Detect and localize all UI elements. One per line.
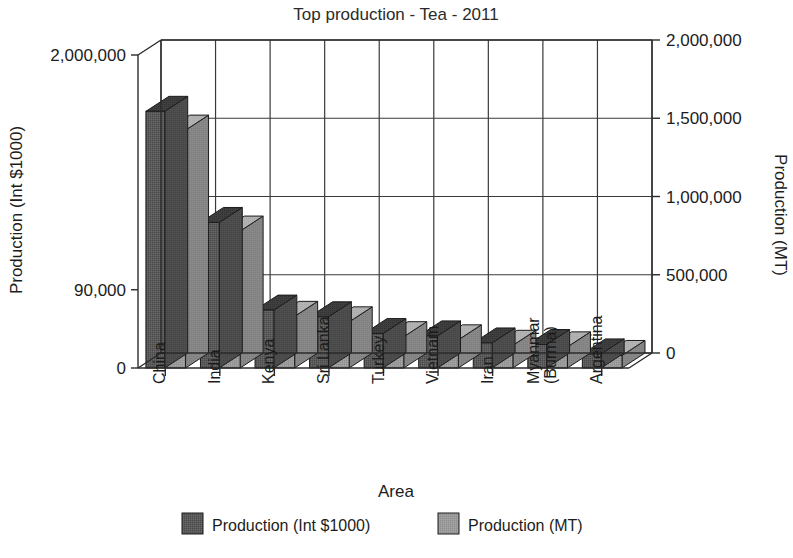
y-axis-label-left: Production (Int $1000): [7, 126, 26, 294]
chart-container: Top production - Tea - 2011 090,0002,000…: [0, 0, 793, 558]
right-tick-label-3: 1,500,000: [666, 109, 742, 128]
category-label-2: Kenya: [260, 339, 277, 384]
category-label-6: Iran: [479, 356, 496, 384]
legend-label-1: Production (MT): [468, 517, 583, 534]
legend-swatch-1: [438, 513, 459, 534]
right-tick-label-4: 2,000,000: [666, 31, 742, 50]
chart-title: Top production - Tea - 2011: [293, 5, 498, 24]
bar-chart-3d: Top production - Tea - 2011 090,0002,000…: [0, 0, 793, 558]
left-tick-label-0: 0: [117, 359, 126, 378]
right-tick-label-1: 500,000: [666, 266, 727, 285]
y-axis-label-right: Production (MT): [771, 154, 790, 276]
category-label-1: India: [206, 349, 223, 384]
x-axis-label: Area: [378, 482, 414, 501]
category-label-0: China: [151, 342, 168, 384]
right-tick-label-2: 1,000,000: [666, 188, 742, 207]
category-label-7: Myanmar: [525, 317, 542, 384]
category-label-4: Turkey: [370, 336, 387, 384]
left-tick-label-2: 2,000,000: [50, 46, 126, 65]
category-label-7: (Burma): [542, 326, 559, 384]
left-tick-label-1: 90,000: [74, 281, 126, 300]
bar-0-0: [146, 96, 188, 368]
legend-label-0: Production (Int $1000): [212, 517, 370, 534]
legend-swatch-0: [182, 513, 203, 534]
right-tick-label-0: 0: [666, 344, 675, 363]
category-label-3: Sri Lanka: [315, 316, 332, 384]
category-label-8: Argentina: [588, 315, 605, 384]
category-label-5: Vietnam: [424, 326, 441, 384]
